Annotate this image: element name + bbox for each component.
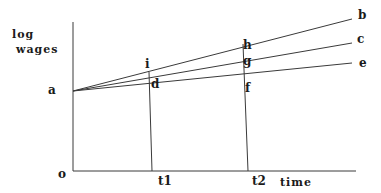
line-b-label: b: [358, 8, 366, 22]
t2-label: t2: [252, 174, 266, 188]
line-e-label: e: [359, 56, 367, 70]
point-f-label: f: [245, 81, 251, 95]
start-point-label: a: [48, 83, 56, 97]
point-h-label: h: [243, 38, 252, 52]
y-axis-label-line1: log: [12, 28, 34, 41]
y-axis-label-line2: wages: [15, 43, 58, 56]
point-i-label: i: [145, 57, 150, 71]
line-c-label: c: [357, 32, 364, 46]
origin-label: o: [58, 167, 66, 181]
x-axis-label: time: [280, 176, 312, 189]
point-g-label: g: [243, 54, 252, 68]
t1-label: t1: [158, 174, 172, 188]
point-d-label: d: [151, 77, 160, 91]
wage-line-b: [73, 19, 352, 91]
log-wages-diagram: log wages a o t1 t2 time b c e i d h g f: [0, 0, 381, 193]
